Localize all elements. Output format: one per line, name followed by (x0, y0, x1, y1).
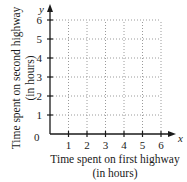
x-tick-label: 4 (121, 139, 127, 151)
x-tick-label: 6 (158, 139, 164, 151)
tick-marks (47, 20, 161, 137)
x-tick-label: 2 (84, 139, 90, 151)
y-axis-title-line1: Time spent on second highway (10, 6, 23, 149)
x-axis-arrow-icon (168, 131, 176, 137)
origin-label: 0 (34, 131, 40, 143)
x-axis-title-line2: (in hours) (92, 167, 137, 180)
y-axis-arrow-icon (47, 4, 53, 12)
y-axis-variable: y (38, 3, 44, 15)
y-tick-label: 5 (37, 33, 43, 45)
y-tick-label: 6 (37, 14, 43, 26)
y-tick-label: 2 (37, 90, 43, 102)
x-tick-label: 1 (66, 139, 72, 151)
y-tick-label: 3 (37, 71, 43, 83)
x-tick-label: 3 (103, 139, 109, 151)
tick-labels: 123456123456 (37, 14, 165, 151)
y-tick-label: 1 (37, 109, 43, 121)
x-axis-variable: x (177, 132, 183, 144)
grid-lines (50, 20, 161, 134)
coordinate-grid-chart: 123456123456 x y 0 Time spent on first h… (0, 0, 187, 182)
x-axis-title-line1: Time spent on first highway (50, 153, 180, 166)
y-tick-label: 4 (37, 52, 43, 64)
y-axis-title-line2: (in hours) (24, 55, 37, 100)
x-tick-label: 5 (140, 139, 146, 151)
